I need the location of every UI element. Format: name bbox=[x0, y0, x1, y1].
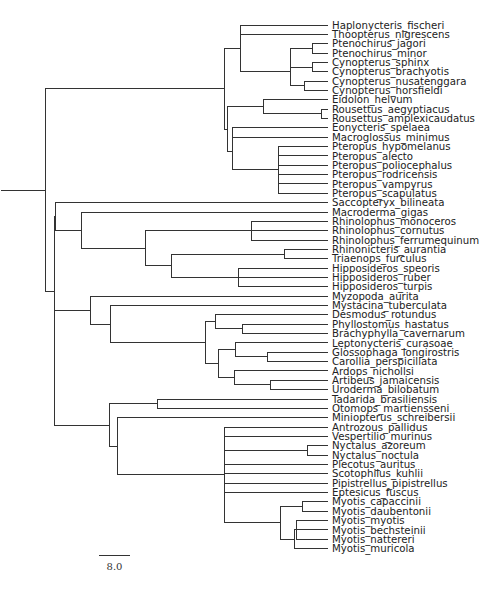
scale-bar-label: 8.0 bbox=[107, 561, 123, 572]
leaf-labels: Haplonycteris_fischeriThoopterus_nigresc… bbox=[331, 20, 479, 556]
scale-bar: 8.0 bbox=[99, 555, 130, 572]
leaf-label: Myotis_muricola bbox=[332, 543, 415, 555]
tree-branches bbox=[1, 25, 328, 549]
phylogenetic-tree: Haplonycteris_fischeriThoopterus_nigresc… bbox=[0, 0, 489, 590]
